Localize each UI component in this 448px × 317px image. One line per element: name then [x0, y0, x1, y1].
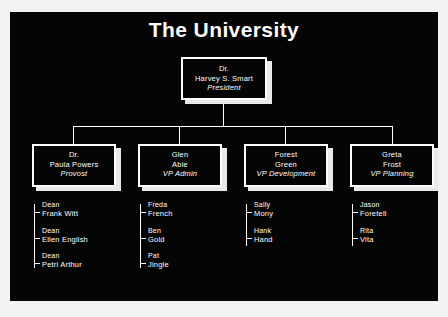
admin-first-name: Glen: [140, 150, 220, 160]
root-name: Harvey S. Smart: [183, 74, 265, 84]
org-chart-panel: The University Dr. Harvey S. Smart Presi…: [10, 12, 438, 301]
report-person: Frank Witt: [42, 209, 88, 219]
list-item[interactable]: Rita Vita: [352, 226, 387, 245]
node-vp-development[interactable]: Forest Green VP Development: [244, 144, 328, 187]
list-item[interactable]: Ben Gold: [140, 226, 173, 245]
connector-drop-planning: [392, 126, 393, 144]
provost-honorific: Dr.: [34, 150, 114, 160]
node-provost[interactable]: Dr. Paula Powers Provost: [32, 144, 116, 187]
report-person: Vita: [360, 235, 387, 245]
node-provost-shadow-right: [116, 148, 121, 191]
root-title: President: [183, 83, 265, 93]
admin-title: VP Admin: [140, 169, 220, 179]
reports-tick: [246, 212, 252, 213]
report-role: Jason: [360, 200, 387, 209]
page-title: The University: [10, 18, 438, 42]
list-item[interactable]: Freda French: [140, 200, 173, 219]
reports-list-provost: Dean Frank Witt Dean Ellen English Dean …: [34, 200, 88, 277]
report-role: Hank: [254, 226, 273, 235]
planning-first-name: Greta: [352, 150, 432, 160]
node-development-shadow-right: [328, 148, 333, 191]
reports-tick: [34, 263, 40, 264]
reports-tick: [34, 238, 40, 239]
reports-tick: [352, 212, 358, 213]
reports-tick: [34, 212, 40, 213]
list-item[interactable]: Dean Frank Witt: [34, 200, 88, 219]
root-honorific: Dr.: [183, 64, 265, 74]
report-person: Jingle: [148, 260, 173, 270]
report-role: Dean: [42, 200, 88, 209]
connector-drop-provost: [73, 126, 74, 144]
report-role: Dean: [42, 226, 88, 235]
node-admin-shadow-right: [222, 148, 227, 191]
report-role: Pat: [148, 251, 173, 260]
report-role: Dean: [42, 251, 88, 260]
report-role: Ben: [148, 226, 173, 235]
node-admin-shadow-bottom: [142, 187, 227, 191]
list-item[interactable]: Pat Jingle: [140, 251, 173, 270]
reports-tick: [140, 212, 146, 213]
report-role: Rita: [360, 226, 387, 235]
development-title: VP Development: [246, 169, 326, 179]
report-person: Ellen English: [42, 235, 88, 245]
node-vp-planning[interactable]: Greta Frost VP Planning: [350, 144, 434, 187]
node-planning-shadow-bottom: [354, 187, 438, 191]
root-node-shadow-bottom: [185, 100, 272, 104]
reports-tick: [140, 238, 146, 239]
report-person: Hand: [254, 235, 273, 245]
list-item[interactable]: Sally Mony: [246, 200, 273, 219]
list-item[interactable]: Hank Hand: [246, 226, 273, 245]
connector-drop-admin: [179, 126, 180, 144]
report-role: Sally: [254, 200, 273, 209]
reports-list-planning: Jason Foretell Rita Vita: [352, 200, 387, 251]
planning-title: VP Planning: [352, 169, 432, 179]
connector-bus: [73, 126, 392, 127]
connector-root-stem: [223, 104, 224, 126]
reports-tick: [246, 238, 252, 239]
node-vp-admin[interactable]: Glen Able VP Admin: [138, 144, 222, 187]
report-role: Freda: [148, 200, 173, 209]
reports-list-admin: Freda French Ben Gold Pat Jingle: [140, 200, 173, 277]
report-person: French: [148, 209, 173, 219]
list-item[interactable]: Dean Ellen English: [34, 226, 88, 245]
scanned-page: The University Dr. Harvey S. Smart Presi…: [0, 0, 448, 317]
reports-tick: [352, 238, 358, 239]
reports-tick: [140, 263, 146, 264]
connector-drop-development: [285, 126, 286, 144]
report-person: Petri Arthur: [42, 260, 88, 270]
node-development-shadow-bottom: [248, 187, 333, 191]
provost-name: Paula Powers: [34, 160, 114, 170]
planning-last-name: Frost: [352, 160, 432, 170]
provost-title: Provost: [34, 169, 114, 179]
node-planning-shadow-right: [434, 148, 438, 191]
list-item[interactable]: Dean Petri Arthur: [34, 251, 88, 270]
root-node-shadow-right: [267, 61, 272, 104]
report-person: Foretell: [360, 209, 387, 219]
admin-last-name: Able: [140, 160, 220, 170]
development-first-name: Forest: [246, 150, 326, 160]
development-last-name: Green: [246, 160, 326, 170]
reports-list-development: Sally Mony Hank Hand: [246, 200, 273, 251]
node-president[interactable]: Dr. Harvey S. Smart President: [181, 57, 267, 100]
node-provost-shadow-bottom: [36, 187, 121, 191]
report-person: Mony: [254, 209, 273, 219]
report-person: Gold: [148, 235, 173, 245]
list-item[interactable]: Jason Foretell: [352, 200, 387, 219]
